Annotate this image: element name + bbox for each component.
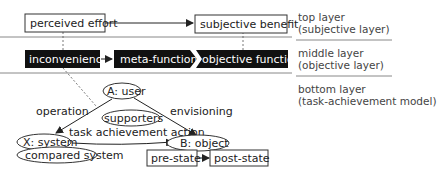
supporters-label: supporters [104, 112, 164, 125]
layer-diagram: perceived effort subjective benefit inco… [0, 0, 442, 174]
object-label: B: object [180, 137, 229, 150]
compared-system-label: compared system [25, 149, 124, 162]
arrow-system-object [72, 142, 173, 144]
dashed-inconvenience-operation [63, 68, 96, 106]
objective-function-label: objective function [202, 53, 301, 66]
top-layer-subtitle: (subjective layer) [298, 23, 390, 35]
envisioning-label: envisioning [170, 105, 233, 118]
meta-function-label: meta-function [120, 53, 197, 66]
operation-label: operation [36, 105, 89, 118]
middle-layer-subtitle: (objective layer) [298, 59, 384, 71]
subjective-benefit-label: subjective benefit [200, 18, 299, 31]
pre-state-label: pre-state [151, 152, 201, 165]
user-label: A: user [107, 85, 146, 98]
top-layer-title: top layer [298, 11, 346, 23]
middle-layer-title: middle layer [298, 47, 364, 59]
bottom-layer-subtitle: (task-achievement model) [298, 95, 437, 107]
bottom-layer-title: bottom layer [298, 83, 366, 95]
inconvenience-label: inconvenience [29, 53, 109, 66]
post-state-label: post-state [214, 152, 270, 165]
